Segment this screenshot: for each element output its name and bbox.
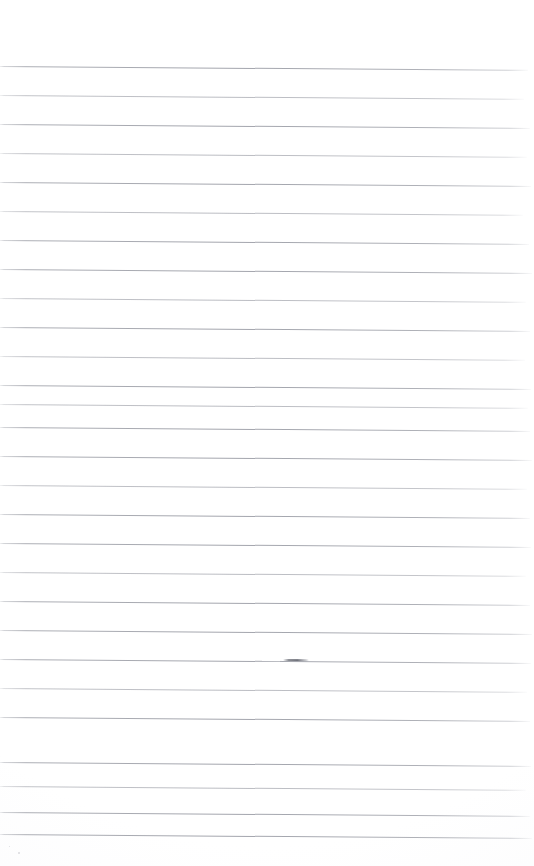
ruled-line <box>0 630 532 635</box>
ruled-line <box>0 688 527 693</box>
ruled-line <box>0 240 529 245</box>
ruled-line <box>0 211 523 216</box>
ruled-line <box>0 385 531 390</box>
ruled-line <box>0 543 531 548</box>
ruled-line <box>0 717 530 722</box>
ruled-line <box>0 95 524 100</box>
ruled-line <box>0 812 530 817</box>
ruled-line <box>0 153 527 158</box>
ruled-line <box>0 834 532 839</box>
scan-speck <box>18 852 20 854</box>
ruled-line <box>0 182 531 187</box>
ruled-line <box>0 786 526 791</box>
notebook-page: Blank Lined Notebook Page <box>0 0 534 866</box>
ruled-line <box>0 572 526 577</box>
scan-speck <box>9 846 10 847</box>
ruled-line <box>0 356 525 361</box>
pen-dash <box>283 659 309 661</box>
ruled-lines-layer <box>0 0 534 866</box>
ruled-line <box>0 762 531 767</box>
ruled-line <box>0 601 530 606</box>
ruled-line <box>0 269 532 274</box>
ruled-line <box>0 404 528 409</box>
pen-gap <box>262 658 280 661</box>
ruled-line <box>0 427 530 432</box>
ruled-line <box>0 485 527 490</box>
ruled-line <box>0 124 530 129</box>
ruled-line <box>0 327 530 332</box>
ruled-line <box>0 514 530 519</box>
ruled-line <box>0 298 526 303</box>
ruled-line <box>0 66 528 71</box>
ruled-line <box>0 456 532 461</box>
